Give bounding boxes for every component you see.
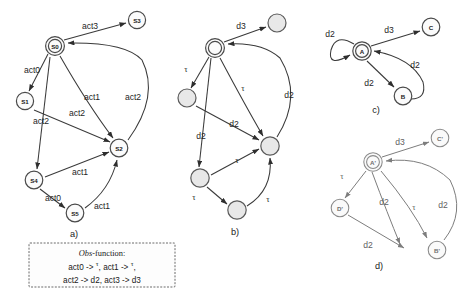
node-s1-label: S1 (21, 98, 29, 105)
node-b2[interactable] (261, 137, 279, 155)
edge-label-act1-s4s2: act1 (72, 167, 88, 177)
edge-label-d3-b: d3 (236, 21, 246, 31)
panel-c: d3 d2 d2 d2 A C B c) (325, 18, 440, 115)
legend-line-2: act2 -> d2, act3 -> d3 (63, 276, 141, 285)
edge-label-act2-s1s2: act2 (69, 108, 85, 118)
node-s5[interactable]: S5 (66, 204, 84, 222)
node-s2-label: S2 (115, 145, 123, 152)
panel-b: d3 τ τ d2 d2 d2 τ τ τ (178, 14, 294, 237)
obs-function-legend: Obs-function: act0 -> τ, act1 -> τ, act2… (29, 243, 175, 287)
node-b3[interactable] (268, 14, 286, 32)
edge-label-act0-s0s1: act0 (24, 65, 40, 75)
edge-label-d2-BpAp: d2 (438, 200, 448, 210)
node-s5-label: S5 (71, 210, 79, 217)
node-B-label: B (401, 93, 406, 100)
node-C[interactable]: C (422, 18, 440, 36)
edge-label-tau-b5b2: τ (266, 195, 270, 204)
legend-title: Obs-function: (79, 249, 126, 258)
node-s3-label: S3 (133, 17, 141, 24)
node-Ap[interactable]: A' (364, 153, 382, 171)
node-A-label: A (360, 48, 365, 55)
edge-label-d2-self-c: d2 (325, 29, 335, 39)
edge-label-act2-s0s4: act2 (33, 116, 49, 126)
node-C-label: C (429, 24, 434, 31)
edge-label-act1-s0s2: act1 (84, 92, 100, 102)
edge-b4-b5-tau (207, 187, 227, 204)
node-s0[interactable]: S0 (46, 37, 65, 56)
edge-label-d3-d: d3 (395, 137, 405, 147)
node-s0-label: S0 (51, 43, 59, 50)
edge-label-d2-b1b2: d2 (229, 119, 239, 129)
node-Cp[interactable]: C' (431, 129, 449, 147)
edge-label-tau-ApDp: τ (340, 172, 344, 181)
node-s4[interactable]: S4 (25, 171, 43, 189)
panel-caption-c: c) (372, 105, 380, 115)
edge-Ap-Bp-d2 (372, 172, 400, 244)
edge-Ap-Cp-d3 (382, 142, 429, 157)
panel-d: d3 τ d2 τ d2 d2 A' C' D' B' d (331, 129, 457, 271)
node-Bp[interactable]: B' (428, 241, 446, 259)
edge-b0-b1-tau (191, 57, 209, 88)
node-b4[interactable] (191, 169, 209, 187)
node-Bp-label: B' (434, 247, 440, 254)
node-Dp-label: D' (337, 205, 343, 212)
edge-label-d3-c: d3 (384, 25, 394, 35)
edge-label-d2-ab-c: d2 (364, 78, 374, 88)
panel-caption-a: a) (70, 229, 78, 239)
figure-canvas: act3 act0 act1 act2 act2 act2 act1 act0 … (0, 0, 476, 296)
node-Ap-label: A' (370, 159, 376, 166)
node-B[interactable]: B (394, 87, 412, 105)
edge-Ap-Dp-tau (345, 171, 366, 198)
panel-caption-d: d) (375, 261, 383, 271)
node-s1[interactable]: S1 (16, 92, 33, 109)
node-b5[interactable] (228, 201, 246, 219)
node-b1[interactable] (178, 89, 196, 107)
node-s2[interactable]: S2 (110, 139, 128, 157)
edge-label-d2-ba-c: d2 (410, 60, 420, 70)
node-s3[interactable]: S3 (128, 11, 145, 28)
edge-label-d2-ApBp: d2 (379, 197, 389, 207)
edge-label-act0-s4s5: act0 (45, 193, 61, 203)
legend-line-1: act0 -> τ, act1 -> τ, (68, 260, 136, 271)
node-Dp[interactable]: D' (331, 199, 349, 217)
edge-label-act1-s5s2: act1 (94, 201, 110, 211)
edge-A-C-d3 (371, 31, 420, 46)
node-A[interactable]: A (353, 42, 371, 60)
edge-label-d2-DpBp: d2 (363, 240, 373, 250)
edge-label-d2-b2b0: d2 (284, 90, 294, 100)
edge-label-d2-b0b4: d2 (196, 131, 206, 141)
edge-label-act3: act3 (82, 21, 98, 31)
edge-label-act2-s2s0: act2 (125, 92, 141, 102)
edge-label-tau-b0b1: τ (184, 65, 188, 74)
edge-Dp-Bp-d2 (348, 215, 404, 248)
node-Cp-label: C' (437, 135, 443, 142)
node-s4-label: S4 (30, 177, 38, 184)
panel-a: act3 act0 act1 act2 act2 act2 act1 act0 … (16, 11, 148, 239)
edge-label-tau-b4b5: τ (192, 193, 196, 202)
automata-diagram-svg: act3 act0 act1 act2 act2 act2 act1 act0 … (0, 0, 476, 296)
edge-A-A-self-d2 (330, 40, 354, 61)
node-b0[interactable] (206, 39, 225, 58)
edge-b0-b4-d2 (199, 58, 211, 167)
edge-b0-b2-tau (220, 58, 263, 136)
edge-label-tau-b0b2: τ (241, 84, 245, 93)
edge-label-tau-ApBp: τ (412, 203, 416, 212)
panel-caption-b: b) (231, 227, 239, 237)
